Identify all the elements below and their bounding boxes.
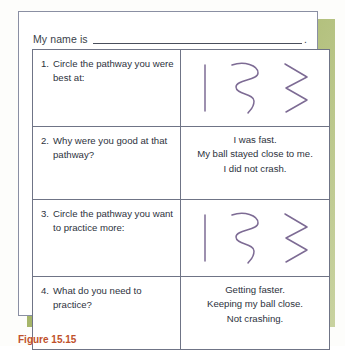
name-blank-input[interactable]: [93, 32, 302, 44]
worksheet-table: 1. Circle the pathway you were best at:: [32, 49, 330, 350]
question-number-2: 2.: [41, 134, 53, 161]
question-text-2: Why were you good at that pathway?: [53, 134, 175, 161]
worksheet-card: My name is . 1. Circle the pathway you w…: [18, 11, 318, 316]
question-text-4: What do you need to practice?: [53, 284, 175, 311]
name-line-punctuation: .: [304, 33, 307, 46]
pathway-curvy-icon[interactable]: [228, 61, 264, 115]
pathway-options-1: [185, 56, 325, 120]
pathway-zigzag-icon[interactable]: [281, 61, 311, 115]
name-label: My name is: [33, 33, 88, 46]
pathway-straight-icon[interactable]: [199, 213, 211, 263]
figure-caption-label: Figure 15.15: [18, 334, 76, 345]
answer-line: Keeping my ball close.: [185, 297, 325, 311]
table-row: 1. Circle the pathway you were best at:: [33, 50, 330, 127]
answer-line: Getting faster.: [185, 283, 325, 297]
answer-cell-3: [181, 200, 330, 277]
pathway-straight-icon[interactable]: [199, 63, 211, 113]
answer-line: I did not crash.: [185, 162, 325, 176]
pathway-zigzag-icon[interactable]: [281, 211, 311, 265]
answer-line: My ball stayed close to me.: [185, 147, 325, 161]
table-row: 3. Circle the pathway you want to practi…: [33, 200, 330, 277]
question-number-1: 1.: [41, 57, 53, 84]
question-cell-2: 2. Why were you good at that pathway?: [33, 127, 181, 200]
answer-line: I was fast.: [185, 133, 325, 147]
figure-caption: Figure 15.15: [18, 334, 338, 346]
answer-cell-1: [181, 50, 330, 127]
question-text-3: Circle the pathway you want to practice …: [53, 207, 175, 234]
question-cell-1: 1. Circle the pathway you were best at:: [33, 50, 181, 127]
pathway-curvy-icon[interactable]: [228, 211, 264, 265]
question-number-3: 3.: [41, 207, 53, 234]
question-text-1: Circle the pathway you were best at:: [53, 57, 175, 84]
pathway-options-3: [185, 206, 325, 270]
answer-cell-2[interactable]: I was fast. My ball stayed close to me. …: [181, 127, 330, 200]
question-number-4: 4.: [41, 284, 53, 311]
name-line: My name is .: [33, 26, 307, 46]
answer-line: Not crashing.: [185, 312, 325, 326]
table-row: 2. Why were you good at that pathway? I …: [33, 127, 330, 200]
question-cell-3: 3. Circle the pathway you want to practi…: [33, 200, 181, 277]
